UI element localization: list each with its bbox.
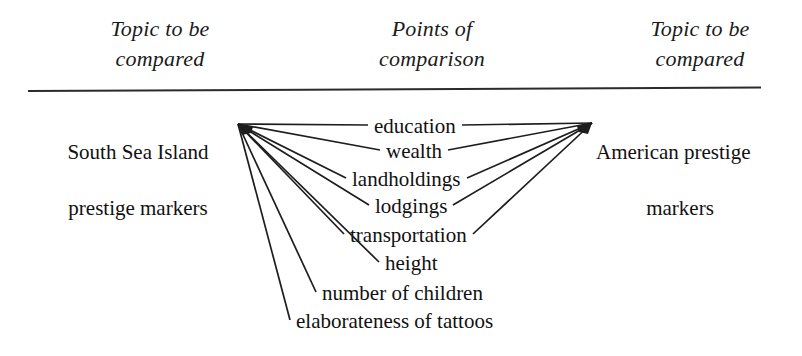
- column-header-left: Topic to be compared: [40, 14, 280, 74]
- left-line-education: [238, 124, 368, 125]
- right-topic-line1: American prestige: [596, 140, 751, 164]
- right-line-education: [462, 123, 592, 125]
- column-header-right: Topic to be compared: [600, 14, 800, 74]
- comparison-point-lodgings: lodgings: [375, 194, 447, 218]
- right-line-lodgings: [453, 123, 592, 205]
- left-line-wealth: [238, 124, 380, 150]
- left-topic-line1: South Sea Island: [67, 140, 208, 164]
- left-arrowhead-icon: [238, 124, 253, 135]
- comparison-point-height: height: [385, 251, 438, 275]
- right-connector-group: [448, 123, 592, 234]
- left-line-lodgings: [238, 124, 369, 205]
- left-line-landholdings: [238, 124, 346, 178]
- header-divider-rule: [28, 86, 761, 92]
- right-arrowhead-icon: [577, 123, 592, 134]
- right-topic-line2: markers: [596, 194, 764, 222]
- comparison-point-transportation: transportation: [350, 223, 467, 247]
- right-line-wealth: [448, 123, 592, 150]
- left-line-elaborateness-of-tattoos: [238, 124, 290, 320]
- left-line-transportation: [238, 124, 344, 234]
- left-topic-label: South Sea Island prestige markers: [36, 110, 240, 222]
- left-topic-line2: prestige markers: [68, 196, 207, 220]
- comparison-point-elaborateness-of-tattoos: elaborateness of tattoos: [296, 309, 493, 333]
- right-line-transportation: [473, 123, 592, 234]
- comparison-point-landholdings: landholdings: [352, 167, 461, 191]
- comparison-point-number-of-children: number of children: [322, 281, 483, 305]
- right-topic-label: American prestige markers: [596, 110, 802, 250]
- right-line-landholdings: [467, 123, 592, 178]
- comparison-point-education: education: [374, 114, 456, 138]
- comparison-point-wealth: wealth: [386, 139, 442, 163]
- comparison-diagram: Topic to be compared Points of compariso…: [0, 0, 802, 356]
- left-line-number-of-children: [238, 124, 316, 292]
- column-header-middle: Points of comparison: [332, 14, 532, 74]
